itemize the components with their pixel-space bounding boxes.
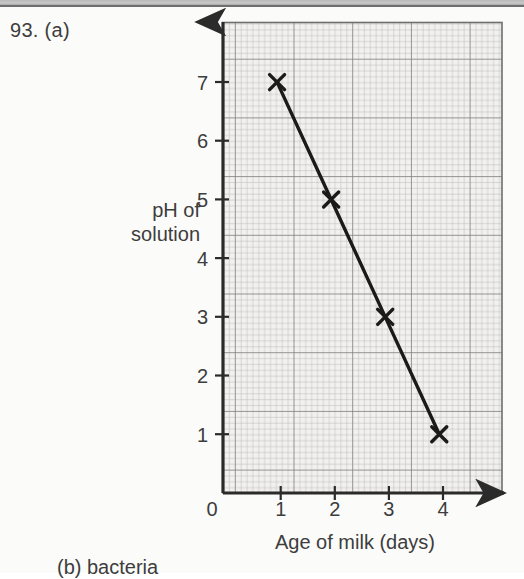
x-tick-label-2: 2 (329, 498, 340, 520)
y-tick-label-6: 6 (197, 130, 208, 152)
question-part-b-label: (b) bacteria (57, 556, 158, 579)
y-tick-label-7: 7 (197, 72, 208, 94)
plot-grid (223, 22, 502, 493)
origin-label: 0 (206, 498, 217, 520)
y-tick-label-4: 4 (197, 248, 208, 270)
y-tick-label-2: 2 (197, 365, 208, 387)
x-tick-label-4: 4 (437, 498, 448, 520)
x-axis-tick-labels: 1 2 3 4 (275, 498, 448, 520)
x-tick-label-1: 1 (275, 498, 286, 520)
y-axis-tick-labels: 7 6 5 4 3 2 1 (197, 72, 208, 446)
y-tick-label-5: 5 (197, 189, 208, 211)
x-tick-label-3: 3 (383, 498, 394, 520)
y-tick-label-1: 1 (197, 424, 208, 446)
y-tick-label-3: 3 (197, 306, 208, 328)
